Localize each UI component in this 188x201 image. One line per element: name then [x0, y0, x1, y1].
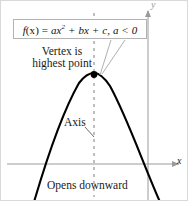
formula-callout-box: f(x) = ax2 + bx + c, a < 0	[13, 19, 147, 39]
parabola-figure: f(x) = ax2 + bx + c, a < 0 Vertex is hig…	[0, 0, 188, 201]
formula-rest: + bx + c, a < 0	[65, 23, 137, 35]
x-axis	[7, 161, 179, 167]
y-axis-label: y	[151, 0, 155, 11]
formula-term-a: ax	[51, 23, 62, 35]
axis-annotation: Axis	[64, 116, 86, 128]
formula-leader-lines	[100, 40, 125, 75]
formula-arg: (x) =	[26, 23, 51, 35]
axis-leader-line	[85, 127, 94, 137]
opens-downward-annotation: Opens downward	[47, 179, 128, 191]
vertex-annotation-line1: Vertex is	[42, 45, 83, 57]
vertex-annotation-line2: highest point	[28, 57, 96, 69]
vertex-point-marker	[91, 71, 98, 78]
y-axis-arrowhead	[145, 10, 151, 17]
formula-leader-line-left	[100, 40, 111, 75]
x-axis-label: x	[177, 156, 181, 167]
formula-text: f(x) = ax2 + bx + c, a < 0	[23, 23, 138, 36]
vertex-annotation: Vertex is highest point	[28, 45, 96, 70]
